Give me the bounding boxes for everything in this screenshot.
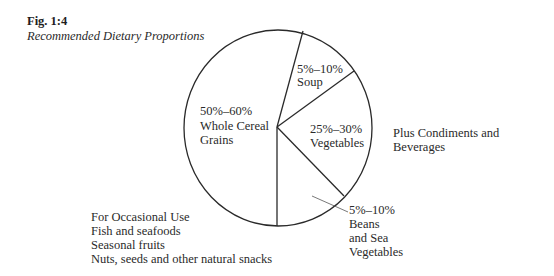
figure-title: Recommended Dietary Proportions xyxy=(26,29,204,43)
condiments-line1: Plus Condiments and xyxy=(393,126,500,140)
beans-name-line2: and Sea xyxy=(349,231,389,245)
soup-name: Soup xyxy=(297,75,323,89)
beans-name-line3: Vegetables xyxy=(349,245,403,259)
beans-name-line1: Beans xyxy=(349,217,380,231)
occasional-item: Nuts, seeds and other natural snacks xyxy=(91,252,272,266)
vegetables-range: 25%–30% xyxy=(310,122,362,136)
grains-name-line2: Grains xyxy=(200,133,233,147)
grains-name-line1: Whole Cereal xyxy=(200,119,270,133)
condiments-note: Plus Condiments and Beverages xyxy=(393,126,500,154)
dietary-proportions-figure: Fig. 1:4 Recommended Dietary Proportions… xyxy=(0,0,554,276)
slice-label-vegetables: 25%–30% Vegetables xyxy=(310,122,364,150)
slice-label-beans: 5%–10% Beans and Sea Vegetables xyxy=(349,203,403,259)
vegetables-name: Vegetables xyxy=(310,136,364,150)
figure-number: Fig. 1:4 xyxy=(27,14,68,28)
occasional-item: Seasonal fruits xyxy=(91,238,165,252)
condiments-line2: Beverages xyxy=(393,140,445,154)
occasional-heading: For Occasional Use xyxy=(91,210,190,224)
occasional-item: Fish and seafoods xyxy=(91,224,181,238)
beans-range: 5%–10% xyxy=(349,203,395,217)
grains-range: 50%–60% xyxy=(200,104,252,118)
soup-range: 5%–10% xyxy=(297,62,343,76)
